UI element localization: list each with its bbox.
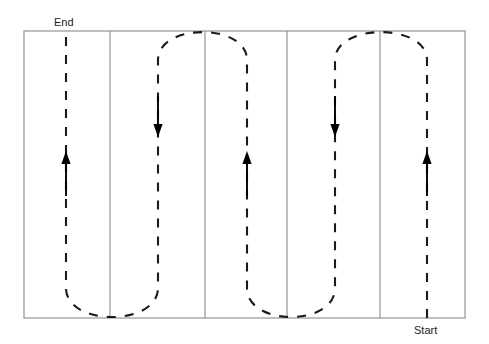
coverage-path-figure: End Start	[0, 0, 489, 344]
field-boundary-rect	[24, 31, 465, 318]
end-label: End	[54, 16, 74, 28]
diagram-canvas: End Start	[0, 0, 489, 344]
start-label: Start	[414, 324, 437, 336]
